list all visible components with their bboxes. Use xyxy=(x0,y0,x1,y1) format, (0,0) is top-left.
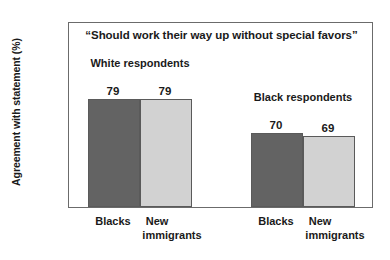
x-category-line2: immigrants xyxy=(139,228,205,242)
bar-value-label: 70 xyxy=(250,120,302,132)
bar-black-respondents-blacks[interactable] xyxy=(251,133,303,207)
bar-chart: Agreement with statement (%) 10090807060… xyxy=(0,0,390,260)
plot-title: “Should work their way up without specia… xyxy=(69,29,374,41)
x-category-label-new-immigrants: Newimmigrants xyxy=(125,214,205,242)
x-category-line2: immigrants xyxy=(302,228,368,242)
group-label-line2: respondents xyxy=(124,57,190,69)
x-category-line1: New xyxy=(109,214,205,228)
bar-black-respondents-new-immigrants[interactable] xyxy=(303,136,355,207)
bar-white-respondents-new-immigrants[interactable] xyxy=(140,99,192,207)
bar-value-label: 79 xyxy=(139,86,191,98)
group-label-line1: Black xyxy=(254,91,283,103)
group-label-black-respondents: Black respondents xyxy=(243,91,363,105)
group-label-line2: respondents xyxy=(286,91,352,103)
x-category-line1: New xyxy=(272,214,368,228)
plot-area: “Should work their way up without specia… xyxy=(68,22,373,208)
y-axis-title: Agreement with statement (%) xyxy=(10,12,22,212)
group-label-white-respondents: White respondents xyxy=(80,57,200,71)
bar-value-label: 79 xyxy=(87,86,139,98)
group-label-line1: White xyxy=(90,57,120,69)
x-category-label-new-immigrants: Newimmigrants xyxy=(288,214,368,242)
bar-white-respondents-blacks[interactable] xyxy=(88,99,140,207)
bar-value-label: 69 xyxy=(302,123,354,135)
